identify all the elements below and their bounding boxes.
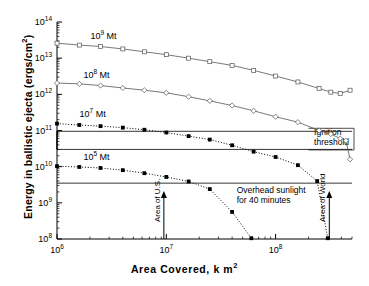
series-marker-10-9-mt [187,56,191,60]
series-marker-10-8-mt [230,103,235,108]
series-marker-10-8-mt [251,108,256,113]
series-marker-10-9-mt [142,50,146,54]
series-marker-10-8-mt [338,136,343,141]
series-marker-10-8-mt [98,83,103,88]
series-marker-10-5-mt [55,164,59,168]
series-marker-10-9-mt [348,88,352,92]
series-marker-10-7-mt [296,163,300,167]
series-line-10-8-mt [57,83,350,159]
series-marker-10-8-mt [295,120,300,125]
series-marker-10-8-mt [186,94,191,99]
series-marker-10-7-mt [77,123,81,127]
series-marker-10-9-mt [164,53,168,57]
series-marker-10-8-mt [120,85,125,90]
series-marker-10-8-mt [273,114,278,119]
series-marker-10-7-mt [230,143,234,147]
marker-arrow-head-area-of-world [326,191,332,198]
series-marker-10-7-mt [252,150,256,154]
series-marker-10-7-mt [274,155,278,159]
series-marker-10-8-mt [164,90,169,95]
series-marker-10-9-mt [329,90,333,94]
series-marker-10-7-mt [99,124,103,128]
series-marker-10-9-mt [252,68,256,72]
plot-area: Energy in ballistic ejecta (ergs/cm2) Ar… [0,0,369,286]
series-marker-10-7-mt [315,179,319,183]
series-marker-10-8-mt [77,81,82,86]
series-marker-10-8-mt [316,128,321,133]
series-marker-10-9-mt [338,92,342,96]
series-marker-10-5-mt [187,180,191,184]
series-marker-10-8-mt [54,80,59,85]
series-marker-10-8-mt [343,138,348,143]
series-marker-10-9-mt [77,43,81,47]
series-marker-10-8-mt [347,157,352,162]
series-marker-10-5-mt [208,187,212,191]
series-marker-10-9-mt [296,80,300,84]
series-marker-10-7-mt [142,128,146,132]
chart-canvas [0,0,369,286]
series-marker-10-7-mt [208,138,212,142]
series-marker-10-9-mt [208,60,212,64]
series-marker-10-9-mt [55,41,59,45]
series-marker-10-7-mt [121,126,125,130]
series-marker-10-9-mt [274,74,278,78]
series-marker-10-5-mt [121,168,125,172]
series-marker-10-9-mt [230,63,234,67]
series-marker-10-5-mt [142,171,146,175]
series-marker-10-5-mt [230,210,234,214]
series-marker-10-8-mt [328,131,333,136]
series-line-10-7-mt [57,124,328,239]
series-marker-10-5-mt [99,166,103,170]
series-marker-10-8-mt [142,88,147,93]
series-marker-10-5-mt [164,175,168,179]
series-marker-10-5-mt [249,236,253,240]
series-marker-10-9-mt [121,47,125,51]
series-marker-10-8-mt [207,98,212,103]
series-line-10-5-mt [57,166,251,238]
series-marker-10-7-mt [187,134,191,138]
series-marker-10-7-mt [164,131,168,135]
series-marker-10-7-mt [55,122,59,126]
marker-arrow-head-area-of-us [161,191,167,198]
series-marker-10-9-mt [98,45,102,49]
series-marker-10-5-mt [77,165,81,169]
chart-figure: Energy in ballistic ejecta (ergs/cm2) Ar… [0,0,369,286]
series-marker-10-9-mt [317,86,321,90]
